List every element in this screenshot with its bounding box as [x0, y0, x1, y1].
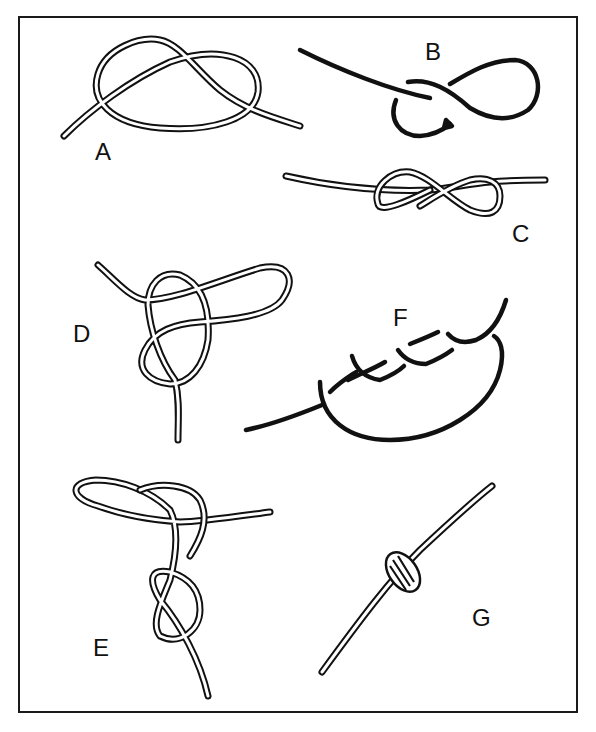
panel-label-d: D [73, 322, 90, 346]
knot-a-drawing [64, 39, 300, 136]
knot-f-drawing [246, 300, 506, 440]
knot-c-drawing [286, 172, 545, 214]
knot-b-drawing [300, 50, 538, 136]
knot-e-drawing [76, 480, 270, 696]
panel-label-e: E [93, 636, 109, 660]
knot-d-drawing [98, 265, 289, 440]
panel-label-b: B [425, 40, 441, 64]
knot-g-drawing [322, 486, 492, 672]
panel-label-a: A [95, 140, 111, 164]
panel-label-g: G [472, 606, 491, 630]
knot-illustration [0, 0, 596, 732]
panel-label-c: C [512, 222, 529, 246]
panel-label-f: F [393, 306, 408, 330]
